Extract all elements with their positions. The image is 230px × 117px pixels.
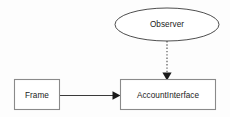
solid-arrowhead-icon bbox=[113, 91, 121, 100]
edge-observer-to-accountinterface[interactable] bbox=[162, 41, 171, 81]
account-interface-label: AccountInterface bbox=[137, 91, 200, 100]
edge-frame-to-accountinterface[interactable] bbox=[60, 91, 121, 100]
node-observer[interactable]: Observer bbox=[115, 8, 219, 41]
diagram-svg: Observer Frame AccountInterface bbox=[0, 0, 230, 117]
diagram-canvas: Observer Frame AccountInterface bbox=[0, 0, 230, 117]
node-frame[interactable]: Frame bbox=[15, 80, 60, 110]
frame-label: Frame bbox=[25, 91, 49, 100]
node-account-interface[interactable]: AccountInterface bbox=[121, 80, 216, 110]
observer-label: Observer bbox=[150, 20, 184, 29]
